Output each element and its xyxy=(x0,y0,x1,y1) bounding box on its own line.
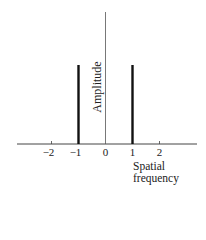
x-axis-label: Spatial frequency xyxy=(133,160,179,184)
x-tick-label: 1 xyxy=(130,147,136,158)
x-tick-label: −2 xyxy=(43,147,55,158)
x-axis-label-line-2: frequency xyxy=(133,172,179,184)
x-tick-label: −1 xyxy=(70,147,82,158)
x-tick-label: 0 xyxy=(103,147,109,158)
x-tick-label: 2 xyxy=(157,147,163,158)
y-axis-label: Amplitude xyxy=(90,61,105,112)
x-axis-label-line-1: Spatial xyxy=(133,160,179,172)
